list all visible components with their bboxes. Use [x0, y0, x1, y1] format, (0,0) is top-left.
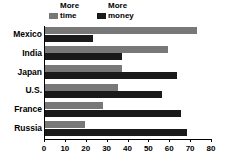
bar-india-more-time — [45, 46, 168, 53]
bar-france-more-time — [45, 102, 103, 109]
chart-legend: More time More money — [48, 1, 168, 24]
legend-label-line2: time — [60, 11, 76, 21]
legend-swatch-more-money — [97, 13, 106, 19]
bar-japan-more-time — [45, 65, 122, 72]
x-tick-mark — [211, 139, 212, 142]
x-tick-mark — [107, 139, 108, 142]
bar-russia-more-money — [45, 129, 187, 136]
bar-france-more-money — [45, 110, 181, 117]
x-tick-mark — [128, 139, 129, 142]
bar-india-more-money — [45, 53, 122, 60]
category-label-us: U.S. — [0, 85, 42, 95]
category-label-russia: Russia — [0, 123, 42, 133]
legend-label-line2: money — [108, 11, 134, 21]
legend-label-line1: More — [108, 1, 127, 11]
x-tick-mark — [65, 139, 66, 142]
x-tick-mark — [86, 139, 87, 142]
category-label-india: India — [0, 48, 42, 58]
x-tick-mark — [148, 139, 149, 142]
legend-entry-more-money: More money — [96, 1, 152, 24]
category-axis-labels: Mexico India Japan U.S. France Russia — [0, 26, 42, 139]
bar-russia-more-time — [45, 121, 85, 128]
plot-area: 01020304050607080 — [44, 26, 211, 139]
bar-japan-more-money — [45, 72, 177, 79]
bar-us-more-money — [45, 91, 162, 98]
x-tick-mark — [44, 139, 45, 142]
bar-mexico-more-time — [45, 27, 197, 34]
legend-label-line1: More — [60, 1, 79, 11]
category-label-france: France — [0, 104, 42, 114]
category-label-mexico: Mexico — [0, 29, 42, 39]
bar-us-more-time — [45, 84, 118, 91]
x-tick-mark — [190, 139, 191, 142]
category-label-japan: Japan — [0, 67, 42, 77]
x-tick-mark — [169, 139, 170, 142]
bar-mexico-more-money — [45, 35, 93, 42]
x-tick-label: 80 — [199, 144, 223, 153]
legend-swatch-more-time — [49, 13, 58, 19]
bar-chart: More time More money Mexico India Japan … — [0, 0, 231, 163]
